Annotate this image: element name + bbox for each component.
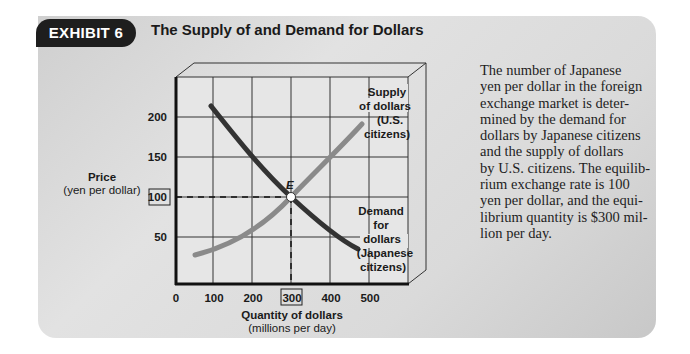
- supply-label: Supply of dollars (U.S. citizens): [359, 84, 411, 140]
- x-axis-title: Quantity of dollars: [241, 309, 343, 321]
- svg-text:citizens): citizens): [364, 128, 410, 140]
- x-tick-200: 200: [243, 292, 262, 304]
- svg-text:dollars: dollars: [363, 233, 401, 245]
- x-tick-100: 100: [204, 292, 223, 304]
- equilibrium-point: [287, 193, 296, 202]
- x-tick-500: 500: [360, 292, 379, 304]
- svg-text:of dollars: of dollars: [359, 100, 411, 112]
- description-line: librium quantity is $300 mil-: [480, 209, 655, 225]
- equilibrium-label: E: [286, 179, 294, 191]
- description-line: The number of Japanese: [480, 62, 655, 78]
- svg-text:citizens): citizens): [360, 261, 406, 273]
- description-line: by U.S. citizens. The equilib-: [480, 160, 655, 176]
- description-line: lion per day.: [480, 225, 655, 241]
- y-axis-title: Price: [88, 171, 116, 183]
- y-tick-200: 200: [148, 111, 167, 123]
- x-tick-400: 400: [321, 292, 340, 304]
- description-line: rium exchange rate is 100: [480, 176, 655, 192]
- y-axis-subtitle: (yen per dollar): [63, 184, 141, 196]
- x-tick-0: 0: [173, 292, 179, 304]
- y-tick-50: 50: [154, 231, 167, 243]
- x-axis-subtitle: (millions per day): [248, 322, 336, 334]
- svg-text:Supply: Supply: [368, 86, 407, 98]
- svg-text:Demand: Demand: [358, 205, 403, 217]
- svg-text:(U.S.: (U.S.: [377, 114, 403, 126]
- y-tick-150: 150: [148, 151, 167, 163]
- y-tick-100: 100: [148, 191, 167, 203]
- description-line: yen per dollar, and the equi-: [480, 192, 655, 208]
- x-tick-300: 300: [282, 292, 301, 304]
- svg-text:for: for: [373, 219, 389, 231]
- description-line: mined by the demand for: [480, 111, 655, 127]
- description-line: and the supply of dollars: [480, 143, 655, 159]
- description-line: yen per dollar in the foreign: [480, 78, 655, 94]
- svg-text:(Japanese: (Japanese: [357, 247, 413, 259]
- description-line: dollars by Japanese citizens: [480, 127, 655, 143]
- description-line: exchange market is deter-: [480, 95, 655, 111]
- exhibit-description: The number of Japanese yen per dollar in…: [480, 62, 655, 241]
